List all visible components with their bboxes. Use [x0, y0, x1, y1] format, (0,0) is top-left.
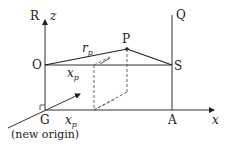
- label-S: S: [174, 59, 182, 73]
- label-rp: rp: [82, 41, 93, 57]
- dashed-projection: [94, 49, 127, 110]
- label-O: O: [32, 58, 42, 72]
- label-G: G: [40, 113, 50, 127]
- label-Q: Q: [176, 8, 186, 22]
- line-PS: [127, 49, 172, 65]
- label-A: A: [167, 113, 177, 127]
- label-xp-bottom: xp: [65, 113, 77, 129]
- small-arrow: [100, 58, 110, 64]
- label-new-origin: (new origin): [11, 128, 79, 141]
- right-angle-mark: [40, 105, 45, 110]
- label-xp-top: xp: [67, 66, 79, 82]
- label-z: z: [49, 9, 57, 23]
- label-P: P: [122, 32, 130, 46]
- coordinate-diagram: R z Q P O S G A x rp xp xp (new origin): [0, 0, 230, 151]
- label-x-axis: x: [212, 113, 219, 127]
- label-R: R: [30, 9, 40, 23]
